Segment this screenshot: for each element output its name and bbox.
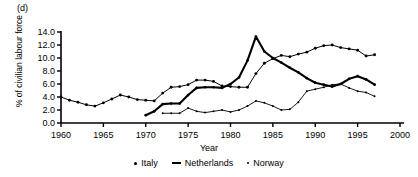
data-point <box>170 112 172 114</box>
legend-item-norway: Norway <box>247 158 284 168</box>
series-line <box>61 45 375 106</box>
data-point <box>187 83 190 86</box>
data-point <box>162 112 164 114</box>
data-point <box>348 77 351 80</box>
data-point <box>272 105 274 107</box>
data-point <box>305 51 308 54</box>
legend-item-italy: Italy <box>134 158 158 168</box>
y-tick-label: 4.0 <box>42 92 55 102</box>
data-point <box>297 101 299 103</box>
data-point <box>238 109 240 111</box>
data-point <box>127 96 130 99</box>
legend-label-norway: Norway <box>253 158 284 168</box>
y-tick-label: 10.0 <box>37 53 55 63</box>
data-point <box>187 94 190 97</box>
data-point <box>238 86 241 89</box>
data-point <box>230 111 232 113</box>
data-point <box>195 87 198 90</box>
series-italy <box>60 44 376 108</box>
data-point <box>212 86 215 89</box>
data-point <box>212 80 215 83</box>
data-point <box>144 99 147 102</box>
data-point <box>348 87 350 89</box>
data-point <box>221 87 224 90</box>
data-point <box>255 35 258 38</box>
data-point <box>289 108 291 110</box>
data-point <box>246 86 249 89</box>
data-point <box>280 54 283 57</box>
data-point <box>365 78 368 81</box>
y-axis-label: % of civilian labour force <box>14 6 24 116</box>
data-point <box>348 47 351 50</box>
data-point <box>272 57 275 60</box>
data-point <box>246 59 249 62</box>
x-tick-label: 1995 <box>348 130 368 140</box>
y-tick-label: 6.0 <box>42 79 55 89</box>
data-point <box>153 110 156 113</box>
data-point <box>196 110 198 112</box>
data-point <box>238 76 241 79</box>
thick-line-icon <box>172 162 181 165</box>
data-point <box>357 90 359 92</box>
data-point <box>136 98 139 101</box>
data-point <box>314 47 317 50</box>
data-point <box>254 72 257 75</box>
data-point <box>246 105 248 107</box>
data-point <box>314 88 316 90</box>
data-point <box>178 85 181 88</box>
y-tick-label: 12.0 <box>37 40 55 50</box>
legend-label-italy: Italy <box>141 158 158 168</box>
data-point <box>340 83 342 85</box>
data-point <box>179 112 181 114</box>
legend-item-netherlands: Netherlands <box>172 158 234 168</box>
x-tick-label: 2000 <box>390 130 410 140</box>
y-tick-label: 14.0 <box>37 27 55 37</box>
data-point <box>85 103 88 106</box>
figure-panel-d: (d) % of civilian labour force 0.02.04.0… <box>0 0 418 177</box>
data-point <box>339 46 342 49</box>
data-point <box>178 102 181 105</box>
data-point <box>161 92 164 95</box>
y-tick-label: 2.0 <box>42 105 55 115</box>
data-point <box>323 86 325 88</box>
data-point <box>195 79 198 82</box>
data-point <box>110 98 113 101</box>
data-point <box>153 99 156 102</box>
data-point <box>374 95 376 97</box>
data-point <box>204 79 207 82</box>
x-tick-label: 1990 <box>305 130 325 140</box>
data-point <box>170 102 173 105</box>
data-point <box>331 85 334 88</box>
data-point <box>144 114 147 117</box>
x-tick-label: 1960 <box>51 130 71 140</box>
data-point <box>93 105 96 108</box>
y-tick-label: 0.0 <box>42 118 55 128</box>
data-point <box>187 107 189 109</box>
data-point <box>102 101 105 104</box>
data-point <box>213 110 215 112</box>
data-point <box>263 102 265 104</box>
data-point <box>365 55 368 58</box>
data-point <box>229 83 232 86</box>
x-axis-label: Year <box>0 143 418 153</box>
data-point <box>68 99 71 102</box>
line-chart-plot: 0.02.04.06.08.010.012.014.01960196519701… <box>0 0 418 140</box>
data-point <box>356 49 359 52</box>
data-point <box>263 62 266 65</box>
dot-small-icon <box>247 162 249 164</box>
data-point <box>161 103 164 106</box>
data-point <box>373 83 376 86</box>
data-point <box>221 109 223 111</box>
y-tick-label: 8.0 <box>42 66 55 76</box>
data-point <box>331 44 334 47</box>
data-point <box>255 100 257 102</box>
data-point <box>297 71 300 74</box>
data-point <box>263 50 266 53</box>
x-tick-label: 1965 <box>93 130 113 140</box>
x-tick-label: 1985 <box>263 130 283 140</box>
data-point <box>288 66 291 69</box>
data-point <box>280 61 283 64</box>
data-point <box>204 86 207 89</box>
data-point <box>77 101 80 104</box>
data-point <box>356 75 359 78</box>
